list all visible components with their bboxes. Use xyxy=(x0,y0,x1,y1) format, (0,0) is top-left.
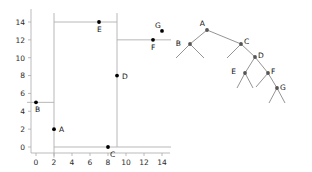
tree-edge-a-c xyxy=(207,30,241,44)
tree-leaf-stub-4 xyxy=(245,73,253,88)
data-point-c[interactable] xyxy=(106,145,110,149)
partition-plot-svg: 0246810121402468101214ABCDEFG xyxy=(0,0,175,172)
data-point-f[interactable] xyxy=(151,38,155,42)
kd-partition-plot: 0246810121402468101214ABCDEFG xyxy=(0,0,175,172)
tree-node-b[interactable] xyxy=(188,42,192,46)
data-point-b[interactable] xyxy=(34,100,38,104)
tree-node-e[interactable] xyxy=(243,71,247,75)
data-point-label-a: A xyxy=(59,125,65,134)
x-tick-label: 4 xyxy=(70,158,75,167)
tree-diagram-svg: ABCDEFG xyxy=(175,0,312,172)
data-point-d[interactable] xyxy=(115,74,119,78)
data-point-label-f: F xyxy=(151,43,155,52)
tree-edge-a-b xyxy=(190,30,207,44)
tree-node-label-f: F xyxy=(271,67,275,76)
tree-node-label-d: D xyxy=(258,51,264,60)
y-tick-label: 4 xyxy=(20,107,25,116)
tree-edge-d-e xyxy=(245,57,255,73)
data-point-label-e: E xyxy=(97,25,102,34)
data-point-label-d: D xyxy=(122,72,128,81)
y-tick-label: 14 xyxy=(15,18,25,27)
x-tick-label: 6 xyxy=(88,158,93,167)
tree-node-label-g: G xyxy=(280,83,286,92)
tree-node-label-c: C xyxy=(244,37,249,46)
y-tick-label: 12 xyxy=(15,36,25,45)
tree-leaf-stub-1 xyxy=(190,44,204,58)
x-tick-label: 0 xyxy=(34,158,39,167)
x-tick-label: 10 xyxy=(121,158,131,167)
data-point-label-g: G xyxy=(155,21,161,30)
tree-node-c[interactable] xyxy=(239,42,243,46)
tree-leaf-stub-6 xyxy=(269,88,277,103)
x-tick-label: 12 xyxy=(139,158,149,167)
y-tick-label: 6 xyxy=(20,89,25,98)
tree-node-label-b: B xyxy=(176,39,181,48)
y-tick-label: 2 xyxy=(20,125,25,134)
tree-node-g[interactable] xyxy=(275,86,279,90)
tree-node-label-a: A xyxy=(200,19,206,28)
tree-node-d[interactable] xyxy=(253,55,257,59)
figure-root: 0246810121402468101214ABCDEFG ABCDEFG xyxy=(0,0,312,172)
data-point-a[interactable] xyxy=(52,127,56,131)
data-point-e[interactable] xyxy=(97,20,101,24)
y-tick-label: 10 xyxy=(15,54,25,63)
x-tick-label: 2 xyxy=(52,158,57,167)
x-tick-label: 14 xyxy=(157,158,167,167)
tree-leaf-stub-2 xyxy=(227,44,241,58)
x-tick-label: 8 xyxy=(106,158,111,167)
tree-node-a[interactable] xyxy=(205,28,209,32)
y-tick-label: 0 xyxy=(20,143,25,152)
tree-leaf-stub-3 xyxy=(237,73,245,88)
kd-tree-diagram: ABCDEFG xyxy=(175,0,312,172)
tree-node-label-e: E xyxy=(231,67,236,76)
data-point-label-b: B xyxy=(35,105,40,114)
tree-node-f[interactable] xyxy=(266,71,270,75)
data-point-label-c: C xyxy=(110,150,115,159)
y-tick-label: 8 xyxy=(20,71,25,80)
tree-leaf-stub-5 xyxy=(256,73,268,87)
